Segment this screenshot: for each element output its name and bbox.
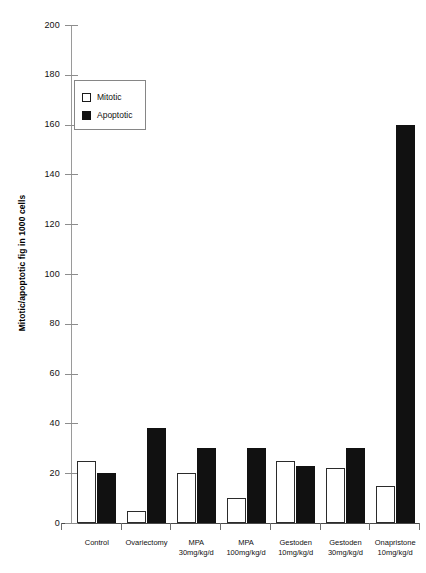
y-tick-180 [65,75,78,76]
y-tick-0 [65,523,78,524]
x-tick-0 [121,523,122,530]
x-axis-label-line1-6: Onapristone [375,538,416,547]
x-tick-4 [320,523,321,530]
y-tick-label-140: 140 [30,170,60,179]
y-tick-label-60: 60 [30,369,60,378]
y-tick-label-0: 0 [30,519,60,528]
legend-item-apoptotic: Apoptotic [82,109,132,121]
open-square-swatch-icon [82,93,91,102]
x-tick-6 [419,523,420,530]
y-tick-120 [65,224,78,225]
x-tick-2 [220,523,221,530]
bar-mitotic-group-2 [177,473,196,523]
bar-apoptotic-group-4 [296,466,315,523]
bar-apoptotic-group-2 [197,448,216,523]
y-tick-20 [65,473,78,474]
bar-chart-figure: 020406080100120140160180200 Mitotic/apop… [0,0,426,573]
y-axis-title: Mitotic/apoptotic fig in 1000 cells [17,168,27,358]
legend-label-apoptotic: Apoptotic [97,111,132,120]
legend-item-mitotic: Mitotic [82,91,122,103]
bar-apoptotic-group-6 [396,125,415,523]
bar-mitotic-group-4 [276,461,295,523]
y-tick-40 [65,423,78,424]
bar-mitotic-group-0 [77,461,96,523]
x-axis-label-line1-0: Control [85,538,109,547]
bar-apoptotic-group-5 [346,448,365,523]
y-tick-label-100: 100 [30,270,60,279]
y-tick-label-40: 40 [30,419,60,428]
x-axis-label-line1-1: Ovariectomy [126,538,168,547]
y-tick-140 [65,174,78,175]
y-tick-100 [65,274,78,275]
y-tick-label-160: 160 [30,120,60,129]
x-tick-3 [270,523,271,530]
y-tick-60 [65,374,78,375]
y-tick-label-80: 80 [30,319,60,328]
y-tick-80 [65,324,78,325]
x-tick-5 [369,523,370,530]
bar-apoptotic-group-3 [247,448,266,523]
y-tick-label-200: 200 [30,21,60,30]
x-axis-label-line2-6: 10mg/kg/d [364,548,426,558]
bar-apoptotic-group-0 [97,473,116,523]
y-tick-label-180: 180 [30,70,60,79]
chart-legend: Mitotic Apoptotic [74,80,146,130]
x-axis-label-6: Onapristone10mg/kg/d [364,538,426,558]
bar-mitotic-group-5 [326,468,345,523]
y-tick-label-120: 120 [30,220,60,229]
x-axis-label-line1-2: MPA [188,538,204,547]
x-tick-start [61,523,62,530]
x-axis-line [61,523,420,524]
x-axis-label-line1-5: Gestoden [329,538,362,547]
bar-mitotic-group-3 [227,498,246,523]
bar-apoptotic-group-1 [147,428,166,523]
filled-square-swatch-icon [82,111,91,120]
bar-mitotic-group-1 [127,511,146,523]
bar-mitotic-group-6 [376,486,395,523]
y-tick-200 [65,25,78,26]
y-tick-label-20: 20 [30,469,60,478]
legend-label-mitotic: Mitotic [97,93,122,102]
x-tick-1 [170,523,171,530]
x-axis-label-line1-4: Gestoden [279,538,312,547]
x-axis-label-line1-3: MPA [238,538,254,547]
